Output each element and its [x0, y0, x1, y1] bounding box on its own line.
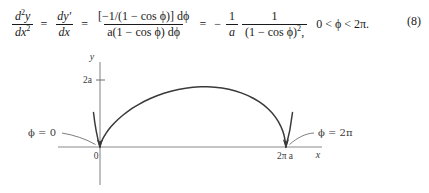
differential-quotient-fraction: [−1/(1 − cos ϕ)] dϕ a(1 − cos ϕ) dϕ	[95, 10, 192, 38]
y-axis-label: y	[89, 51, 95, 62]
term3-numerator: [−1/(1 − cos ϕ)] dϕ	[95, 10, 192, 24]
lhs-den-dx: dx	[15, 25, 26, 39]
one-over-one-minus-cos-squared-fraction: 1 (1 − cos ϕ)2,	[242, 10, 307, 38]
equation-condition: 0 < ϕ < 2π.	[316, 17, 369, 32]
x-tick-label-twopia: 2π a	[277, 151, 294, 161]
cycloid-curve	[100, 87, 286, 147]
equals-sign-1: =	[35, 17, 52, 32]
equation-number: (8)	[407, 14, 421, 29]
term5-numerator: 1	[269, 10, 281, 24]
lhs-num-y: y	[25, 9, 30, 23]
one-over-a-fraction: 1 a	[226, 10, 238, 38]
second-derivative-fraction: d2y dx2	[12, 10, 33, 38]
dyprime-dx-fraction: dy′ dx	[54, 10, 74, 38]
leader-line-phi-twopi	[290, 133, 315, 145]
minus-sign: −	[211, 17, 224, 32]
leader-line-phi-zero	[62, 133, 96, 145]
term4-denominator: a	[226, 24, 238, 39]
equals-sign-3: =	[194, 17, 211, 32]
x-axis-label: x	[315, 149, 321, 160]
term4-numerator: 1	[226, 10, 238, 24]
equation-8: d2y dx2 = dy′ dx = [−1/(1 − cos ϕ)] dϕ a…	[10, 6, 422, 42]
term2-numerator: dy′	[54, 10, 74, 24]
term5-trailing-comma: ,	[301, 25, 304, 39]
annotation-phi-equals-zero: ϕ = 0	[28, 127, 56, 138]
term3-denominator: a(1 − cos ϕ) dϕ	[104, 24, 183, 39]
y-tick-label-2a: 2a	[83, 75, 93, 85]
annotation-phi-equals-twopi: ϕ = 2π	[318, 127, 353, 138]
equals-sign-2: =	[76, 17, 93, 32]
term5-den-text: (1 − cos ϕ)	[245, 25, 297, 39]
term2-denominator: dx	[56, 24, 73, 39]
textbook-page-fragment: d2y dx2 = dy′ dx = [−1/(1 − cos ϕ)] dϕ a…	[0, 0, 429, 193]
origin-label: 0	[94, 151, 99, 161]
cycloid-figure: y x 2a 0 2π a ϕ = 0 ϕ = 2π	[0, 45, 429, 193]
lhs-den-exponent: 2	[26, 24, 30, 33]
term5-denominator: (1 − cos ϕ)2,	[242, 24, 307, 39]
